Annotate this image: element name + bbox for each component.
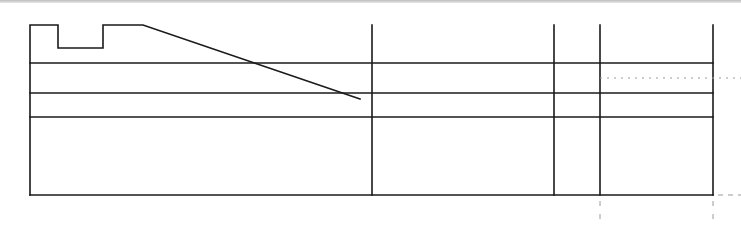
- technical-drawing: [0, 0, 741, 225]
- profile-outline: [30, 25, 360, 195]
- vertical-lines: [372, 25, 713, 195]
- tick-marks: [600, 201, 713, 219]
